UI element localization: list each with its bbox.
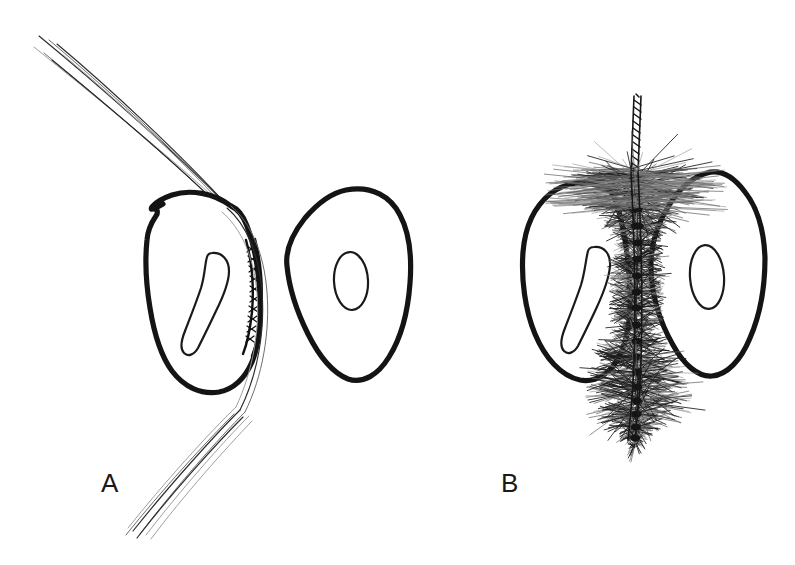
bristle-hub	[631, 322, 641, 329]
bristle-hub	[631, 305, 641, 312]
figure-canvas	[0, 0, 795, 565]
bristle-hub	[632, 289, 642, 296]
figure-root: A B	[0, 0, 795, 565]
bristle-hub	[632, 273, 642, 280]
bristle-hub	[632, 338, 642, 345]
panel-label-b: B	[501, 470, 519, 496]
bristle-hub	[632, 398, 642, 405]
panel-label-a: A	[101, 470, 119, 496]
